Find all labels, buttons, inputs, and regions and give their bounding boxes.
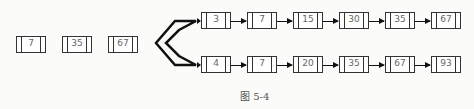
bottom-list-node-5: 93 — [431, 56, 461, 73]
list-arrow — [369, 21, 384, 22]
list-arrow — [277, 21, 292, 22]
list-arrow — [369, 65, 384, 66]
node-value: 7 — [248, 14, 276, 24]
top-list-node-2: 15 — [293, 12, 323, 29]
node-value: 30 — [340, 14, 368, 24]
bottom-list-node-4: 67 — [385, 56, 415, 73]
top-list-node-0: 3 — [201, 12, 231, 29]
node-value: 93 — [432, 58, 460, 68]
top-list-node-1: 7 — [247, 12, 277, 29]
node-value: 35 — [340, 58, 368, 68]
node-value: 4 — [202, 58, 230, 68]
top-list-node-4: 35 — [385, 12, 415, 29]
list-arrow — [415, 21, 430, 22]
bottom-list-node-1: 7 — [247, 56, 277, 73]
node-value: 35 — [386, 14, 414, 24]
node-value: 67 — [432, 14, 460, 24]
bottom-list-node-2: 20 — [293, 56, 323, 73]
list-arrow — [277, 65, 292, 66]
node-value: 7 — [248, 58, 276, 68]
node-value: 20 — [294, 58, 322, 68]
list-arrow — [231, 21, 246, 22]
top-list-node-5: 67 — [431, 12, 461, 29]
node-value: 67 — [386, 58, 414, 68]
figure-caption: 图 5-4 — [240, 88, 269, 103]
node-value: 3 — [202, 14, 230, 24]
node-value: 15 — [294, 14, 322, 24]
bottom-list-node-0: 4 — [201, 56, 231, 73]
bottom-list-node-3: 35 — [339, 56, 369, 73]
list-arrow — [231, 65, 246, 66]
top-list-node-3: 30 — [339, 12, 369, 29]
list-arrow — [323, 65, 338, 66]
list-arrow — [323, 21, 338, 22]
list-arrow — [415, 65, 430, 66]
